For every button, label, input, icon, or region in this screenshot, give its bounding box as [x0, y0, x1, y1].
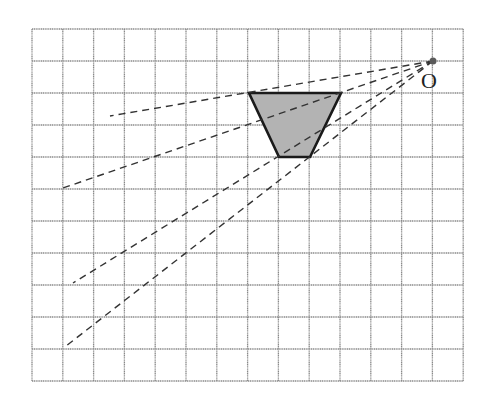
center-point-o: [430, 58, 437, 65]
grid-diagram: O: [0, 0, 489, 407]
center-label: O: [421, 68, 437, 93]
dashed-ray: [66, 61, 433, 346]
